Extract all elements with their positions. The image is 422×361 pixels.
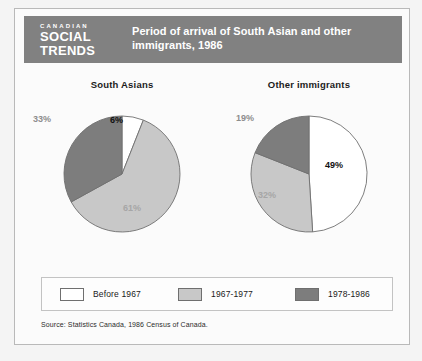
slice-label-other-1967-1977: 32% (258, 190, 276, 200)
figure-card: CANADIAN SOCIAL TRENDS Period of arrival… (14, 8, 410, 345)
pie-chart-other-immigrants: Other immigrants 49% 32% 19% (219, 65, 399, 277)
pie-chart-south-asians: South Asians 6% 61% 33% (32, 65, 212, 277)
slice-label-other-before-1967: 49% (325, 160, 343, 170)
legend-swatch-1978-1986 (295, 288, 319, 301)
source-note: Source: Statistics Canada, 1986 Census o… (41, 321, 208, 328)
pie-svg-wrap-other-immigrants: 49% 32% 19% (219, 86, 399, 266)
slice-label-south-asians-1978-1986: 33% (33, 114, 51, 124)
legend-swatch-before-1967 (60, 288, 84, 301)
slice-label-south-asians-before-1967: 6% (110, 115, 123, 125)
legend-item-1978-1986: 1978-1986 (295, 288, 370, 301)
slice-label-south-asians-1967-1977: 61% (123, 203, 141, 213)
masthead-line-1: SOCIAL (40, 30, 132, 44)
legend-item-before-1967: Before 1967 (60, 288, 141, 301)
header-bar: CANADIAN SOCIAL TRENDS Period of arrival… (24, 16, 402, 63)
figure-title: Period of arrival of South Asian and oth… (132, 16, 402, 52)
canadian-social-trends-logo: CANADIAN SOCIAL TRENDS (24, 16, 132, 57)
pie-slice (309, 116, 367, 232)
masthead-line-2: TRENDS (40, 44, 132, 58)
charts-area: South Asians 6% 61% 33% Other immigrants… (24, 65, 402, 277)
legend-label-1967-1977: 1967-1977 (211, 289, 253, 299)
pie-svg-wrap-south-asians: 6% 61% 33% (32, 86, 212, 266)
legend-label-1978-1986: 1978-1986 (328, 289, 370, 299)
legend: Before 1967 1967-1977 1978-1986 (41, 277, 393, 311)
pie-svg-south-asians (32, 86, 212, 266)
legend-label-before-1967: Before 1967 (93, 289, 141, 299)
legend-item-1967-1977: 1967-1977 (178, 288, 253, 301)
slice-label-other-1978-1986: 19% (236, 113, 254, 123)
legend-swatch-1967-1977 (178, 288, 202, 301)
